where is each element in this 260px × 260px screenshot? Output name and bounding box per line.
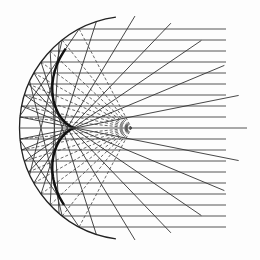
mirror-caustic-diagram: [0, 0, 260, 260]
